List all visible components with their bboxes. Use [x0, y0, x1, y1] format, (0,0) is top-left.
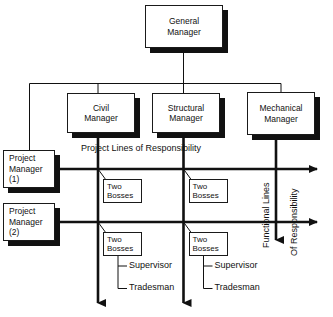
project-manager-2-label: Project Manager (2) — [4, 206, 54, 238]
label-tradesman-right: Tradesman — [215, 282, 260, 292]
node-structural-manager[interactable]: Structural Manager — [152, 93, 220, 133]
civil-manager-label: Civil Manager — [68, 103, 134, 124]
label-tradesman-left: Tradesman — [129, 282, 174, 292]
two-bosses-b-label: Two Bosses — [190, 182, 227, 201]
two-bosses-a-label: Two Bosses — [104, 182, 141, 201]
annotation-functional-lines: Functional Lines — [261, 182, 271, 248]
node-two-bosses-civil-project2[interactable]: Two Bosses — [103, 232, 142, 256]
label-supervisor-left: Supervisor — [129, 260, 172, 270]
node-two-bosses-structural-project2[interactable]: Two Bosses — [189, 232, 228, 256]
structural-manager-label: Structural Manager — [153, 103, 219, 124]
label-supervisor-right: Supervisor — [215, 260, 258, 270]
two-bosses-d-label: Two Bosses — [190, 235, 227, 254]
node-two-bosses-civil-project1[interactable]: Two Bosses — [103, 179, 142, 203]
node-civil-manager[interactable]: Civil Manager — [67, 93, 135, 133]
two-bosses-c-label: Two Bosses — [104, 235, 141, 254]
org-chart-diagram: General Manager Civil Manager Structural… — [0, 0, 333, 317]
annotation-of-responsibility: Of Responsibility — [289, 188, 299, 256]
node-project-manager-2[interactable]: Project Manager (2) — [3, 203, 55, 241]
node-two-bosses-structural-project1[interactable]: Two Bosses — [189, 179, 228, 203]
general-manager-label: General Manager — [146, 16, 222, 37]
project-manager-1-label: Project Manager (1) — [4, 153, 54, 185]
annotation-project-lines: Project Lines of Responsibility — [81, 143, 201, 153]
node-mechanical-manager[interactable]: Mechanical Manager — [247, 92, 315, 135]
node-general-manager[interactable]: General Manager — [145, 5, 223, 48]
node-project-manager-1[interactable]: Project Manager (1) — [3, 150, 55, 188]
mechanical-manager-label: Mechanical Manager — [248, 103, 314, 124]
